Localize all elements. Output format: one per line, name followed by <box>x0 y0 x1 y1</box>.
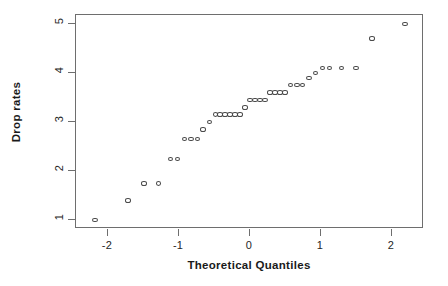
data-point <box>313 71 318 76</box>
y-axis-tick <box>68 72 75 73</box>
data-point <box>262 98 267 103</box>
x-axis-tick <box>320 229 321 236</box>
data-point <box>182 137 187 142</box>
data-point <box>188 137 193 142</box>
data-point <box>353 66 358 71</box>
x-axis-tick <box>107 229 108 236</box>
data-point <box>207 120 212 125</box>
y-axis-tick <box>68 219 75 220</box>
plot-area <box>75 14 423 228</box>
y-axis-tick <box>68 23 75 24</box>
data-point <box>168 157 173 162</box>
x-axis-title: Theoretical Quantiles <box>75 259 423 271</box>
x-axis-tick-label: -1 <box>158 239 198 251</box>
data-point <box>300 83 305 88</box>
y-axis-tick <box>68 170 75 171</box>
qq-plot-figure: 12345 -2-1012 Theoretical Quantiles Drop… <box>0 0 448 286</box>
data-point <box>175 157 180 162</box>
data-point <box>327 66 332 71</box>
data-point <box>306 76 311 81</box>
data-point <box>339 66 344 71</box>
data-point <box>125 198 130 203</box>
scatter-points-layer <box>76 15 422 227</box>
data-point <box>288 83 293 88</box>
data-point <box>282 90 287 95</box>
data-point <box>369 36 374 41</box>
x-axis-tick-label: 0 <box>229 239 269 251</box>
data-point <box>156 181 161 186</box>
data-point <box>242 105 247 110</box>
x-axis-tick-label: 2 <box>371 239 411 251</box>
data-point <box>195 137 200 142</box>
y-axis-title: Drop rates <box>10 52 22 172</box>
x-axis-tick <box>249 229 250 236</box>
data-point <box>200 127 205 132</box>
y-axis-tick <box>68 121 75 122</box>
y-axis-tick-label: 5 <box>0 15 62 27</box>
data-point <box>402 22 407 27</box>
x-axis-tick-label: -2 <box>87 239 127 251</box>
data-point <box>237 112 242 117</box>
x-axis-tick <box>391 229 392 236</box>
data-point <box>141 181 146 186</box>
x-axis-tick <box>178 229 179 236</box>
y-axis-tick-label: 1 <box>0 211 62 223</box>
data-point <box>320 66 325 71</box>
data-point <box>294 83 299 88</box>
data-point <box>92 218 97 223</box>
x-axis-tick-label: 1 <box>300 239 340 251</box>
